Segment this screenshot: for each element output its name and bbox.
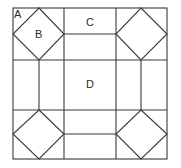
diamond-top-right <box>116 8 167 60</box>
label-a: A <box>14 8 22 20</box>
label-b: B <box>35 28 42 40</box>
quilt-block-diagram: A B C D <box>0 0 181 168</box>
diamond-bottom-right <box>116 110 167 159</box>
label-d: D <box>86 78 94 90</box>
diamond-bottom-left <box>13 110 64 159</box>
label-c: C <box>86 16 94 28</box>
